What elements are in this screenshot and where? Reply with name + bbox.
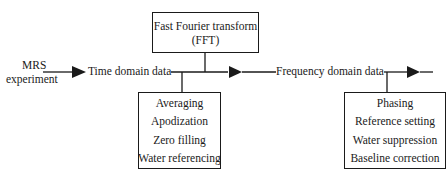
time-step: Averaging <box>156 94 204 113</box>
time-processing-box: Averaging Apodization Zero filling Water… <box>138 92 221 169</box>
fft-title: Fast Fourier transform <box>154 19 257 33</box>
arrow-icon <box>229 66 242 78</box>
frequency-processing-box: Phasing Reference setting Water suppress… <box>344 92 446 169</box>
time-step: Water referencing <box>138 149 220 168</box>
input-label-line1: MRS <box>22 59 46 72</box>
frequency-step: Reference setting <box>355 112 435 131</box>
time-step: Apodization <box>151 112 208 131</box>
input-label-line2: experiment <box>6 73 58 86</box>
time-domain-label: Time domain data <box>88 65 171 78</box>
time-step: Zero filling <box>153 131 206 150</box>
arrow-icon <box>72 66 86 78</box>
fft-abbrev: (FFT) <box>192 33 219 47</box>
frequency-domain-label: Frequency domain data <box>276 65 384 78</box>
fft-box: Fast Fourier transform (FFT) <box>152 12 259 53</box>
arrow-icon <box>407 66 420 78</box>
frequency-step: Water suppression <box>353 131 437 150</box>
frequency-step: Phasing <box>377 94 413 113</box>
frequency-step: Baseline correction <box>350 149 439 168</box>
